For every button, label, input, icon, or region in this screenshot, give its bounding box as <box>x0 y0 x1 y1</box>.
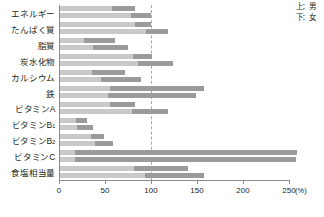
bar-row: カルシウム <box>60 70 290 84</box>
x-tick-250 <box>289 180 290 184</box>
bar-male <box>60 54 152 59</box>
bar-segment-light <box>60 109 132 114</box>
bar-segment-dark <box>84 38 115 43</box>
bar-segment-dark <box>95 141 113 146</box>
bar-segment-light <box>60 141 95 146</box>
bar-segment-dark <box>108 93 196 98</box>
chart-legend: 上：男 下：女 <box>296 2 316 24</box>
bar-segment-dark <box>134 166 188 171</box>
bar-male <box>60 86 204 91</box>
category-label: 炭水化物 <box>20 55 55 67</box>
x-tick-100 <box>151 180 152 184</box>
category-label: ビタミンA <box>15 102 55 114</box>
x-tick-200 <box>243 180 244 184</box>
bar-segment-light <box>60 70 92 75</box>
bar-segment-light <box>60 134 91 139</box>
bar-segment-light <box>60 102 110 107</box>
bar-female <box>60 109 168 114</box>
bar-segment-dark <box>91 134 104 139</box>
x-tick-0 <box>59 180 60 184</box>
bar-male <box>60 134 104 139</box>
bar-segment-light <box>60 45 93 50</box>
bar-segment-light <box>60 86 110 91</box>
bar-female <box>60 45 128 50</box>
bar-female <box>60 29 168 34</box>
bar-male <box>60 70 125 75</box>
bar-row: エネルギー <box>60 6 290 20</box>
nutrient-intake-chart: 上：男 下：女 050100150200250 (%) エネルギーたんぱく質脂質… <box>0 0 324 217</box>
bar-segment-light <box>60 93 108 98</box>
bar-male <box>60 150 297 155</box>
bar-row: ビタミンA <box>60 101 290 115</box>
bar-female <box>60 93 196 98</box>
bar-segment-dark <box>112 6 134 11</box>
plot-area: 050100150200250 (%) エネルギーたんぱく質脂質炭水化物カルシウ… <box>59 5 289 180</box>
bar-segment-dark <box>132 109 168 114</box>
category-label: ビタミンC <box>14 150 55 162</box>
x-tick-150 <box>197 180 198 184</box>
legend-entry-female: 下：女 <box>296 13 316 24</box>
bar-female <box>60 61 173 66</box>
bar-male <box>60 166 188 171</box>
category-label: たんぱく質 <box>11 23 55 35</box>
bar-male <box>60 118 87 123</box>
bar-segment-dark <box>76 118 87 123</box>
bar-row: ビタミンB1 <box>60 117 290 131</box>
bar-segment-light <box>60 77 101 82</box>
bar-segment-light <box>60 150 75 155</box>
bar-segment-dark <box>77 125 94 130</box>
bar-segment-light <box>60 54 133 59</box>
bar-row: たんぱく質 <box>60 22 290 36</box>
bar-male <box>60 22 151 27</box>
category-label: 脂質 <box>38 39 55 51</box>
bar-female <box>60 157 296 162</box>
bar-segment-dark <box>75 157 296 162</box>
x-tick-label-200: 200 <box>236 186 249 195</box>
bar-segment-light <box>60 6 112 11</box>
x-tick-label-150: 150 <box>190 186 203 195</box>
bar-segment-dark <box>138 61 173 66</box>
category-label: ビタミンB2 <box>12 134 55 146</box>
bar-male <box>60 6 135 11</box>
bar-segment-light <box>60 166 134 171</box>
bar-segment-dark <box>110 102 136 107</box>
category-label: 鉄 <box>46 87 55 99</box>
bar-female <box>60 13 151 18</box>
bar-row: ビタミンC <box>60 149 290 163</box>
bar-male <box>60 102 135 107</box>
bar-segment-light <box>60 13 131 18</box>
bar-row: ビタミンB2 <box>60 133 290 147</box>
bar-segment-light <box>60 173 145 178</box>
category-label: エネルギー <box>11 7 55 19</box>
category-label: カルシウム <box>11 71 55 83</box>
bar-female <box>60 173 204 178</box>
category-label: ビタミンB1 <box>12 118 55 130</box>
x-axis-unit-label: (%) <box>295 186 307 195</box>
bar-segment-light <box>60 38 84 43</box>
bar-segment-dark <box>146 29 168 34</box>
bar-segment-dark <box>101 77 141 82</box>
bar-female <box>60 125 93 130</box>
bar-segment-dark <box>75 150 298 155</box>
bar-segment-dark <box>92 70 125 75</box>
x-axis-line <box>59 180 290 181</box>
legend-entry-male: 上：男 <box>296 2 316 13</box>
bar-segment-light <box>60 29 146 34</box>
bar-female <box>60 77 141 82</box>
bar-row: 食塩相当量 <box>60 165 290 179</box>
bar-segment-dark <box>110 86 205 91</box>
category-label: 食塩相当量 <box>11 166 55 178</box>
bar-segment-dark <box>133 54 152 59</box>
bar-segment-dark <box>135 22 152 27</box>
bar-row: 脂質 <box>60 38 290 52</box>
x-tick-label-50: 50 <box>101 186 110 195</box>
bar-row: 炭水化物 <box>60 54 290 68</box>
bar-male <box>60 38 115 43</box>
bar-segment-dark <box>145 173 205 178</box>
bar-segment-light <box>60 118 76 123</box>
x-tick-label-100: 100 <box>144 186 157 195</box>
bar-row: 鉄 <box>60 86 290 100</box>
bar-segment-light <box>60 125 77 130</box>
bar-segment-light <box>60 157 75 162</box>
bar-female <box>60 141 113 146</box>
